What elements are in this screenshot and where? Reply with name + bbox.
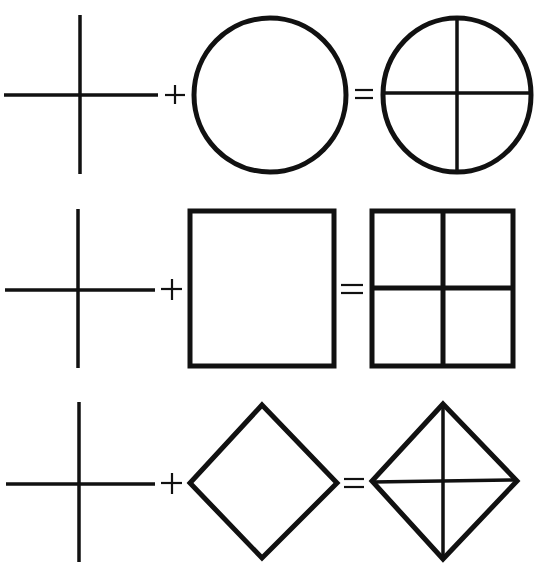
square-with-cross-icon [372, 211, 513, 366]
diamond-icon [190, 405, 337, 558]
equals-sign-icon [341, 285, 363, 293]
square-icon [190, 211, 334, 366]
shape-equations-diagram [0, 0, 540, 567]
row-2-equation [5, 209, 513, 368]
row-1-equation [4, 15, 531, 174]
cross-icon [6, 402, 155, 562]
plus-sign-icon [161, 473, 182, 494]
plus-sign-icon [165, 85, 185, 104]
cross-icon [5, 209, 155, 368]
diamond-with-cross-icon [372, 404, 517, 559]
plus-sign-icon [161, 279, 182, 300]
circle-with-cross-icon [383, 18, 531, 172]
cross-icon [4, 15, 158, 174]
equals-sign-icon [344, 479, 364, 487]
row-3-equation [6, 402, 517, 562]
circle-icon [194, 18, 346, 172]
equals-sign-icon [355, 90, 373, 98]
